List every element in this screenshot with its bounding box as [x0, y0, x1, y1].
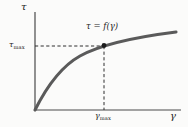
curve-equation-argument: (γ) [106, 21, 118, 31]
gamma-max-label: γmax [95, 112, 111, 120]
shear-stress-strain-figure: τ γ τmax γmax τ = f(γ) [0, 0, 188, 127]
tau-max-label: τmax [9, 41, 25, 49]
curve-equation-operator: = [91, 21, 104, 31]
max-point-marker [102, 43, 107, 48]
plot-canvas [0, 0, 188, 127]
tau-max-subscript: max [13, 44, 24, 50]
y-axis-label: τ [21, 2, 27, 12]
x-axis-label: γ [170, 111, 176, 121]
gamma-max-subscript: max [100, 115, 111, 121]
curve-equation-label: τ = f(γ) [86, 22, 118, 31]
